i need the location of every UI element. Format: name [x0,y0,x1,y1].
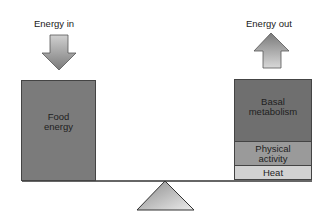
energy-in-label: Energy in [34,18,74,29]
food-energy-block: Food energy [21,80,96,181]
basal-label-line1: Basal [249,97,298,107]
physical-label-line1: Physical [255,144,290,154]
down-arrow-icon [42,35,76,70]
food-energy-label-line1: Food [44,112,73,122]
food-energy-label-line2: energy [44,122,73,132]
heat-label: Heat [263,168,283,178]
basal-metabolism-block: Basal metabolism [234,79,312,142]
heat-block: Heat [234,165,312,180]
energy-out-label: Energy out [246,18,292,29]
fulcrum-triangle [137,181,194,210]
up-arrow-icon [254,33,289,68]
physical-activity-block: Physical activity [234,141,312,166]
physical-label-line2: activity [255,154,290,164]
basal-label-line2: metabolism [249,107,298,117]
